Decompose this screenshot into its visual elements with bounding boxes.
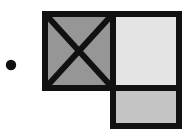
light-square bbox=[113, 14, 179, 88]
medium-square bbox=[113, 88, 179, 126]
bullet-dot-marker bbox=[6, 60, 16, 70]
shape-diagram bbox=[0, 0, 184, 140]
figure-canvas bbox=[0, 0, 184, 140]
